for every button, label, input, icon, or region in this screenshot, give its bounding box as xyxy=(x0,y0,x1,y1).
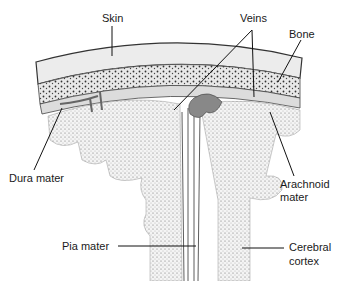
meninges-diagram: Skin Veins Bone Dura mater Arachnoid mat… xyxy=(0,0,344,281)
anatomy-illustration xyxy=(0,0,344,281)
label-skin: Skin xyxy=(102,12,123,24)
label-cortex-line2: cortex xyxy=(289,255,319,267)
label-bone: Bone xyxy=(289,28,315,40)
label-arachnoid-line1: Arachnoid xyxy=(280,178,330,190)
label-dura-mater: Dura mater xyxy=(9,172,64,184)
falx-and-sinus xyxy=(182,108,200,281)
label-arachnoid-line2: mater xyxy=(280,191,308,203)
label-veins: Veins xyxy=(240,12,267,24)
cerebral-cortex-left xyxy=(48,100,182,281)
label-pia-mater: Pia mater xyxy=(62,240,109,252)
label-cortex-line1: Cerebral xyxy=(289,241,331,253)
